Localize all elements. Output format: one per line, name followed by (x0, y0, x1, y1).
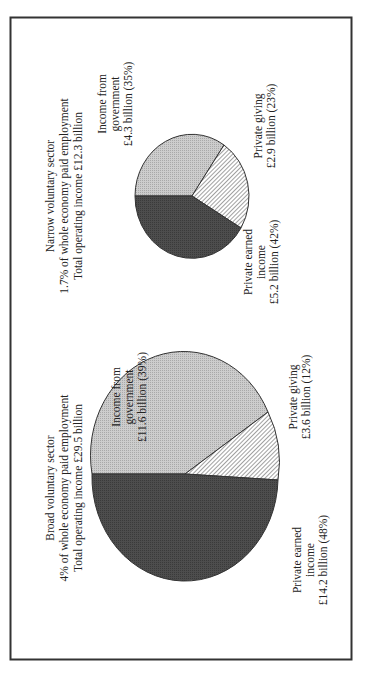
pie-narrow (135, 134, 249, 258)
svg-text:£2.9 billion (23%): £2.9 billion (23%) (265, 84, 278, 169)
broad-label-earned: Private earned income £14.2 billion (48%… (291, 515, 330, 606)
narrow-label-government: Income from government £4.3 billion (35%… (96, 62, 135, 147)
narrow-label-earned: Private earned income £5.2 billion (42%) (242, 220, 281, 305)
svg-text:£11.6 billion (39%): £11.6 billion (39%) (136, 352, 149, 442)
slice-broad-earned (92, 474, 278, 581)
chart-figure: Broad voluntary sector 4% of whole econo… (0, 0, 367, 677)
broad-title-block: Broad voluntary sector 4% of whole econo… (44, 394, 85, 582)
svg-text:Private earned: Private earned (291, 527, 303, 593)
narrow-subtitle-1: 1.7% of whole economy paid employment (58, 97, 71, 293)
svg-text:£3.6 billion (12%): £3.6 billion (12%) (300, 355, 313, 440)
svg-text:£5.2 billion (42%): £5.2 billion (42%) (268, 220, 281, 305)
broad-label-giving: Private giving £3.6 billion (12%) (287, 355, 313, 440)
broad-title: Broad voluntary sector (44, 435, 57, 541)
svg-text:Private giving: Private giving (252, 93, 265, 158)
broad-subtitle-2: Total operating income £29.5 billion (72, 404, 85, 572)
svg-text:Income from: Income from (110, 367, 122, 427)
narrow-label-giving: Private giving £2.9 billion (23%) (252, 84, 278, 169)
svg-text:income: income (304, 543, 316, 577)
svg-text:£4.3 billion (35%): £4.3 billion (35%) (122, 62, 135, 147)
svg-text:Private giving: Private giving (287, 364, 300, 429)
broad-subtitle-1: 4% of whole economy paid employment (58, 394, 71, 582)
svg-text:Income from: Income from (96, 74, 108, 134)
narrow-subtitle-2: Total operating income £12.3 billion (72, 112, 85, 280)
narrow-title-block: Narrow voluntary sector 1.7% of whole ec… (44, 97, 85, 293)
svg-text:Private earned: Private earned (242, 229, 254, 295)
svg-text:£14.2 billion (48%): £14.2 billion (48%) (317, 515, 330, 606)
svg-text:government: government (109, 76, 122, 132)
narrow-title: Narrow voluntary sector (44, 140, 57, 253)
svg-text:income: income (255, 245, 267, 279)
svg-text:government: government (123, 369, 136, 425)
